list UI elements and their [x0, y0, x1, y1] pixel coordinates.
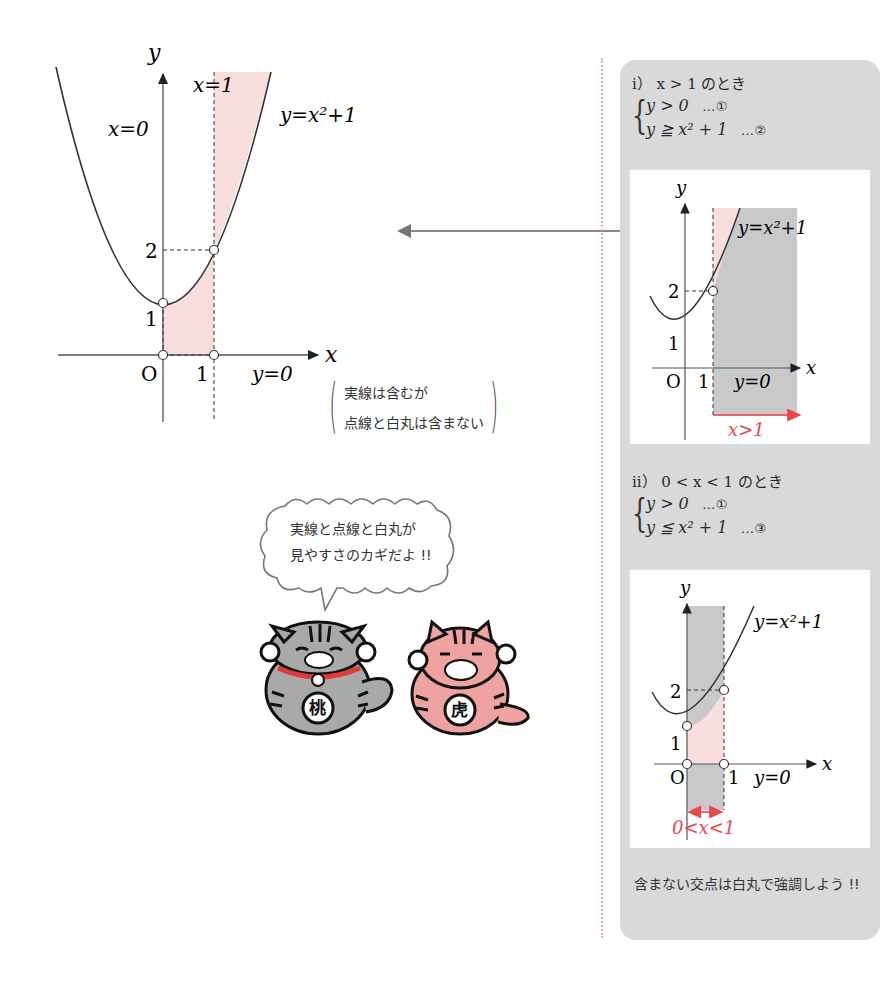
- pink-cat-badge: 虎: [451, 700, 468, 720]
- gray-cat-badge: 桃: [309, 698, 326, 718]
- tick-x1: 1: [196, 362, 209, 386]
- panel-note: 含まない交点は白丸で強調しよう !!: [634, 870, 870, 898]
- case1-eq1: y > 0…①: [646, 96, 727, 115]
- case2-graph-box: y x y=x²+1 2 1 O 1 y=0 0<x<1: [630, 570, 870, 848]
- speech-bubble-text: 実線と点線と白丸が 見やすさのカギだよ !!: [290, 516, 432, 568]
- case2-eq1: y > 0…①: [646, 494, 727, 513]
- tick-y2: 2: [145, 239, 158, 263]
- case2-graph: y x y=x²+1 2 1 O 1 y=0 0<x<1: [630, 570, 870, 848]
- curve-label: y=x²+1: [279, 103, 357, 127]
- shaded-region-x-gt-1: [214, 72, 271, 251]
- speech-line-2: 見やすさのカギだよ !!: [290, 542, 432, 568]
- case1-curve-label: y=x²+1: [737, 217, 807, 238]
- open-point-1-0: [210, 351, 219, 360]
- case2-range-label: 0<x<1: [672, 817, 735, 838]
- case2-title: ii） 0 < x < 1 のとき: [632, 470, 783, 491]
- gray-cat-icon: 桃: [261, 622, 392, 734]
- svg-text:2: 2: [670, 681, 681, 702]
- open-point-1-2: [210, 246, 219, 255]
- brace-icon: {: [632, 92, 647, 136]
- case2-system: { y > 0…① y ≦ x² + 1…③: [634, 494, 874, 544]
- origin-label: O: [141, 362, 157, 386]
- label-x-eq-0: x=0: [108, 117, 149, 141]
- svg-text:1: 1: [670, 733, 681, 754]
- dotted-divider: [601, 58, 603, 938]
- label-y-eq-0: y=0: [251, 362, 293, 386]
- svg-text:x: x: [806, 357, 816, 378]
- case1-range-label: x>1: [728, 419, 765, 440]
- explanation-panel: i） x > 1 のとき { y > 0…① y ≧ x² + 1…②: [620, 60, 880, 940]
- svg-text:y: y: [675, 177, 687, 198]
- case1-eq2: y ≧ x² + 1…②: [646, 120, 766, 139]
- case2-curve-label: y=x²+1: [753, 611, 823, 632]
- svg-text:y=0: y=0: [753, 767, 791, 788]
- left-arrow-icon: [395, 220, 625, 242]
- svg-text:1: 1: [728, 767, 739, 788]
- svg-text:1: 1: [698, 371, 709, 392]
- legend-line-2: 点線と白丸は含まない: [344, 408, 484, 438]
- cat-characters: 桃 虎: [250, 612, 540, 742]
- legend-note: ( 実線は含むが 点線と白丸は含まない ): [330, 378, 498, 438]
- svg-text:y=0: y=0: [733, 371, 771, 392]
- open-point-0-1: [159, 299, 168, 308]
- svg-text:x: x: [822, 753, 832, 774]
- case1-graph-box: y x y=x²+1 2 1 O 1 y=0 x>1: [630, 170, 870, 444]
- legend-line-1: 実線は含むが: [344, 378, 484, 408]
- paren-left: (: [329, 374, 337, 438]
- y-axis-label: y: [147, 40, 161, 65]
- brace-icon: {: [632, 490, 647, 534]
- case2-eq2: y ≦ x² + 1…③: [646, 518, 766, 537]
- label-x-eq-1: x=1: [193, 73, 234, 97]
- tick-y1: 1: [145, 307, 158, 331]
- svg-text:O: O: [670, 767, 685, 788]
- x-axis-label: x: [325, 342, 338, 367]
- speech-line-1: 実線と点線と白丸が: [290, 516, 432, 542]
- svg-text:1: 1: [668, 333, 679, 354]
- svg-text:O: O: [666, 371, 681, 392]
- pink-cat-icon: 虎: [409, 622, 528, 734]
- svg-text:y: y: [679, 577, 691, 598]
- case1-system: { y > 0…① y ≧ x² + 1…②: [634, 96, 874, 146]
- case1-graph: y x y=x²+1 2 1 O 1 y=0 x>1: [630, 170, 870, 444]
- case1-title: i） x > 1 のとき: [632, 72, 746, 93]
- svg-text:2: 2: [668, 281, 679, 302]
- open-point-origin: [159, 351, 168, 360]
- paren-right: ): [491, 374, 499, 438]
